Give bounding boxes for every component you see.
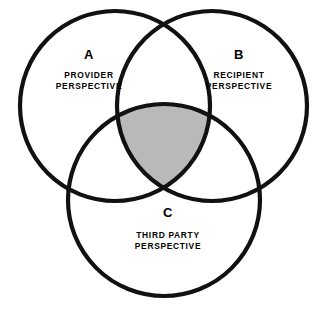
set-b-caption-line1: RECIPIENT (214, 70, 265, 80)
set-b-letter: B (234, 47, 244, 62)
set-c-caption-line2: PERSPECTIVE (135, 241, 201, 251)
venn-diagram-svg: A PROVIDER PERSPECTIVE B RECIPIENT PERSP… (0, 0, 327, 311)
venn-diagram-canvas: A PROVIDER PERSPECTIVE B RECIPIENT PERSP… (0, 0, 327, 311)
set-a-caption-line1: PROVIDER (64, 70, 113, 80)
set-c-caption-line1: THIRD PARTY (136, 230, 199, 240)
set-c-letter: C (163, 205, 173, 220)
set-b-caption-line2: PERSPECTIVE (206, 81, 272, 91)
set-a-caption-line2: PERSPECTIVE (56, 81, 122, 91)
set-a-letter: A (84, 47, 94, 62)
